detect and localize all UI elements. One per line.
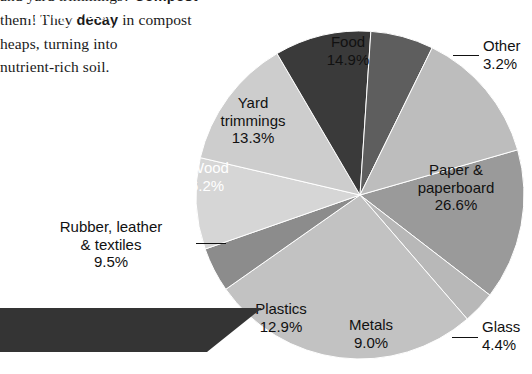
slice-label-food-pct: 14.9%	[305, 51, 391, 69]
slice-label-rubber-name-2: & textiles	[33, 236, 189, 254]
leader-line-glass	[452, 337, 478, 338]
slice-label-metals-pct: 9.0%	[336, 334, 406, 352]
slice-label-wood: Wood 6.2%	[190, 159, 270, 194]
slice-label-glass: Glass 4.4%	[482, 318, 530, 353]
slice-label-metals-name: Metals	[349, 316, 393, 333]
slice-label-plastics: Plastics 12.9%	[237, 300, 325, 335]
slice-label-paper: Paper & paperboard 26.6%	[404, 161, 508, 214]
slice-label-wood-pct: 6.2%	[190, 177, 270, 195]
slice-label-paper-name-2: paperboard	[404, 179, 508, 197]
slice-label-food: Food 14.9%	[305, 33, 391, 68]
slice-label-yard-pct: 13.3%	[198, 129, 308, 147]
body-line-4: nutrient-rich soil.	[0, 58, 110, 75]
slice-label-plastics-pct: 12.9%	[237, 318, 325, 336]
slice-label-metals: Metals 9.0%	[336, 316, 406, 351]
slice-label-rubber: Rubber, leather & textiles 9.5%	[33, 218, 189, 271]
caption-banner-text: Garbage Pizza, United States, 2014	[24, 8, 134, 38]
slice-label-paper-name-1: Paper &	[429, 161, 483, 178]
slice-label-wood-name: Wood	[190, 159, 229, 176]
slice-label-other: Other 3.2%	[483, 37, 531, 72]
slice-label-plastics-name: Plastics	[255, 300, 307, 317]
slice-label-rubber-name-1: Rubber, leather	[60, 218, 163, 235]
slice-label-glass-pct: 4.4%	[482, 336, 530, 354]
slice-label-glass-name: Glass	[482, 318, 520, 335]
slice-label-yard: Yard trimmings 13.3%	[198, 94, 308, 147]
slice-label-food-name: Food	[331, 33, 365, 50]
slice-label-rubber-pct: 9.5%	[33, 253, 189, 271]
figure-page: and yard trimmings? Compost them! They d…	[0, 0, 532, 374]
leader-line-rubber	[196, 243, 226, 244]
body-line-1-bold: Compost	[134, 0, 198, 4]
slice-label-other-pct: 3.2%	[483, 55, 531, 73]
slice-label-yard-name-1: Yard	[238, 94, 269, 111]
body-line-1-pre: and yard trimmings?	[0, 0, 134, 4]
slice-label-yard-name-2: trimmings	[198, 112, 308, 130]
leader-line-other	[453, 55, 479, 56]
slice-label-paper-pct: 26.6%	[404, 196, 508, 214]
slice-label-other-name: Other	[483, 37, 521, 54]
